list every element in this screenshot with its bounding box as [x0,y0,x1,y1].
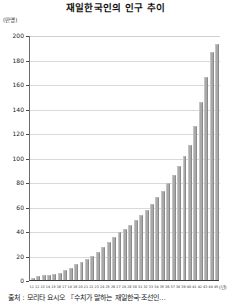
bar [145,210,149,280]
y-axis-tick-label: 200 [0,33,24,39]
chart-figure: 재일한국인의 인구 추이 (만명) 0204060801001201401601… [0,0,231,305]
bar [52,274,56,280]
y-axis-tick-label: 20 [0,254,24,260]
bar [134,220,138,280]
y-axis-tick-mark [26,159,29,160]
y-axis-tick-label: 180 [0,58,24,64]
y-axis-tick-mark [26,134,29,135]
x-axis-tick-labels: 1112131415161718192021222324252627282930… [29,283,219,292]
y-axis-tick-mark [26,208,29,209]
bar [166,183,170,280]
bar [47,275,51,280]
bar-slot [214,35,219,280]
x-axis-tick-label: 45 [213,283,218,292]
bar [69,268,73,280]
y-axis-tick-mark [26,232,29,233]
bar [188,145,192,280]
y-axis-tick-mark [26,257,29,258]
bar [204,77,208,280]
bar [58,273,62,280]
y-axis-tick-label: 160 [0,82,24,88]
y-axis-tick-label: 0 [0,278,24,284]
y-axis-tick-label: 140 [0,107,24,113]
bar [31,278,35,280]
y-axis-tick-mark [26,183,29,184]
bar [101,247,105,280]
bar [150,204,154,280]
bar [96,252,100,280]
bar [172,175,176,280]
y-axis-tick-label: 120 [0,131,24,137]
bar [177,166,181,280]
bar [199,102,203,280]
bar [128,225,132,280]
bar-series [30,35,220,280]
chart-title: 재일한국인의 인구 추이 [0,2,231,14]
bar [74,264,78,280]
plot-area [29,36,219,281]
bar [90,256,94,281]
y-axis-unit-label: (만명) [3,17,17,24]
bar [80,262,84,280]
y-axis-tick-mark [26,85,29,86]
y-axis-tick-mark [26,36,29,37]
y-axis-tick-mark [26,281,29,282]
bar [193,126,197,280]
bar [36,276,40,280]
bar [112,237,116,280]
y-axis-tick-mark [26,110,29,111]
bar [42,275,46,280]
source-note: 출처 : 모리타 요시오 『수치가 말하는 재일한국·조선인… [8,294,231,303]
y-axis-tick-label: 80 [0,180,24,186]
bar [215,44,219,280]
y-axis-tick-label: 100 [0,156,24,162]
bar [118,232,122,280]
bar [155,197,159,280]
x-axis-unit-label: (년) [219,283,227,292]
bar [183,156,187,280]
bar [139,215,143,280]
bar [210,52,214,280]
bar [85,259,89,280]
bar [63,270,67,280]
y-axis-tick-label: 40 [0,229,24,235]
bar [123,229,127,280]
bar [107,242,111,280]
bar [161,191,165,280]
y-axis-tick-mark [26,61,29,62]
y-axis-tick-label: 60 [0,205,24,211]
